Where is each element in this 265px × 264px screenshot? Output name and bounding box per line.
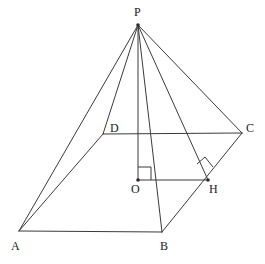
vertex-label-D: D — [110, 122, 119, 134]
right-angle-marker-at-O — [138, 167, 151, 180]
edge-PD — [103, 25, 138, 134]
vertex-label-P: P — [134, 6, 141, 18]
vertex-label-B: B — [160, 240, 168, 252]
edge-PH — [138, 25, 208, 180]
vertex-label-A: A — [11, 240, 20, 252]
vertex-label-H: H — [209, 183, 218, 195]
vertex-label-O: O — [131, 183, 140, 195]
vertex-label-C: C — [246, 122, 254, 134]
edge-PC — [138, 25, 242, 133]
geometry-figure: P A B C D O H — [0, 0, 265, 264]
edge-AB — [19, 231, 162, 232]
edge-DA — [19, 134, 103, 231]
edge-PA — [19, 25, 138, 231]
right-angle-marker-at-H — [197, 157, 213, 167]
edge-PB — [138, 25, 162, 232]
edge-CD — [103, 133, 242, 134]
edge-BC — [162, 133, 242, 232]
pyramid-diagram-svg — [0, 0, 265, 264]
vertex-dot-P — [136, 23, 140, 27]
